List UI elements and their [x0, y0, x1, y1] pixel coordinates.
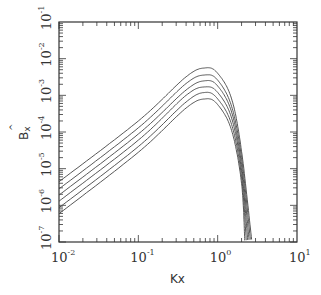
chart: 10-210-110010110-110-210-310-410-510-610…	[0, 0, 321, 295]
curve-5	[59, 92, 246, 240]
curve-6	[59, 99, 245, 241]
y-tick-label: 10-4	[37, 116, 54, 140]
curve-4	[59, 87, 248, 240]
y-tick-label: 10-3	[37, 79, 54, 103]
x-axis-label: Kx	[170, 272, 185, 286]
x-tick-label: 10-1	[130, 248, 154, 265]
data-curves	[59, 68, 252, 241]
svg-text:^: ^	[8, 123, 18, 131]
curve-2	[59, 75, 250, 240]
x-tick-label: 10-2	[51, 248, 75, 265]
y-tick-label: 10-7	[37, 226, 54, 250]
x-tick-label: 100	[210, 248, 232, 265]
plot-frame	[59, 22, 297, 242]
y-tick-label: 10-5	[37, 152, 54, 176]
y-tick-label: 10-6	[37, 189, 54, 213]
y-tick-label: 10-1	[37, 6, 54, 30]
x-tick-label: 101	[289, 248, 311, 265]
y-tick-label: 10-2	[37, 42, 54, 66]
y-axis-label: Bx	[17, 126, 32, 140]
